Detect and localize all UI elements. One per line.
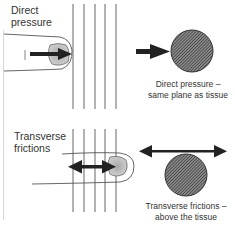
tissue-fibre-lines-top: [73, 4, 116, 109]
caption-line-1: Transverse frictions –: [136, 201, 235, 212]
caption-direct-pressure: Direct pressure – same plane as tissue: [140, 79, 235, 101]
tissue-circle-top: [171, 30, 213, 72]
tissue-circle-bottom: [165, 154, 207, 196]
caption-transverse-frictions: Transverse frictions – above the tissue: [136, 201, 235, 223]
panel-title-transverse-frictions: Transverse frictions: [14, 130, 66, 154]
title-line-2: pressure: [11, 16, 52, 28]
title-line-2: frictions: [14, 142, 66, 154]
panel-title-direct-pressure: Direct pressure: [11, 4, 52, 28]
caption-line-2: above the tissue: [136, 212, 235, 223]
caption-line-2: same plane as tissue: [140, 90, 235, 101]
single-right-arrow-icon-large: [136, 44, 170, 59]
diagram-canvas: [0, 0, 235, 233]
title-line-1: Transverse: [14, 130, 66, 142]
caption-line-1: Direct pressure –: [140, 79, 235, 90]
title-line-1: Direct: [11, 4, 52, 16]
